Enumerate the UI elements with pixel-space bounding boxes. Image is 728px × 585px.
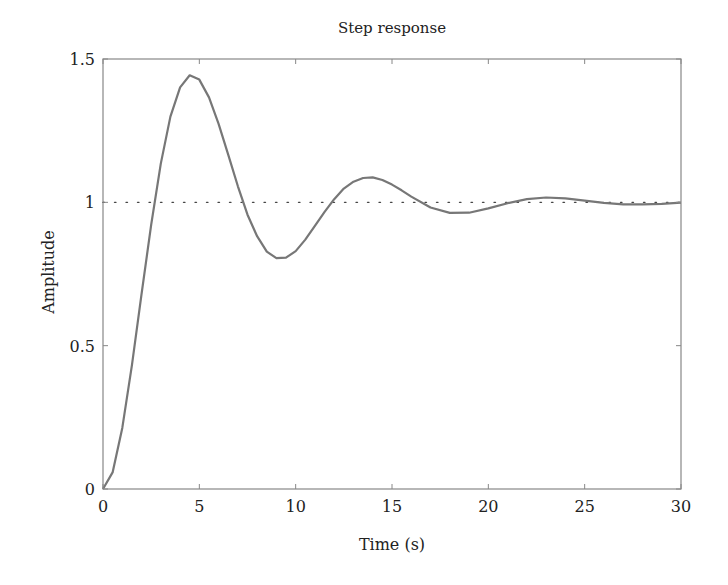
x-tick-label: 5 [194, 497, 204, 516]
series-lines [103, 75, 681, 489]
y-tick-label: 1.5 [70, 50, 95, 69]
plot-box [103, 59, 681, 489]
x-axis-ticks: 051015202530 [98, 59, 691, 516]
plot-frame [103, 59, 681, 489]
y-tick-label: 1 [85, 193, 95, 212]
x-axis-label: Time (s) [359, 535, 425, 554]
x-tick-label: 30 [671, 497, 691, 516]
y-axis-label: Amplitude [39, 230, 58, 315]
y-axis-ticks: 00.511.5 [70, 50, 681, 499]
x-tick-label: 10 [285, 497, 305, 516]
x-tick-label: 15 [382, 497, 402, 516]
y-tick-label: 0.5 [70, 337, 95, 356]
x-tick-label: 0 [98, 497, 108, 516]
y-tick-label: 0 [85, 480, 95, 499]
response-curve [103, 75, 681, 489]
x-tick-label: 25 [574, 497, 594, 516]
step-response-chart: 051015202530 00.511.5 Step response Time… [0, 0, 728, 585]
chart-title: Step response [338, 19, 446, 37]
x-tick-label: 20 [478, 497, 498, 516]
